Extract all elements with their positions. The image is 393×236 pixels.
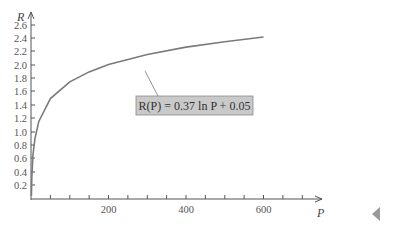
x-axis bbox=[31, 196, 322, 202]
svg-text:0.8: 0.8 bbox=[14, 140, 27, 151]
svg-text:400: 400 bbox=[178, 204, 194, 215]
previous-page-arrow-icon[interactable] bbox=[372, 207, 380, 221]
svg-text:1.0: 1.0 bbox=[14, 127, 27, 138]
annotation-leader bbox=[145, 71, 158, 96]
equation-label: R(P) = 0.37 ln P + 0.05 bbox=[136, 96, 253, 115]
svg-text:1.8: 1.8 bbox=[14, 73, 27, 84]
svg-text:200: 200 bbox=[101, 204, 117, 215]
svg-text:2.6: 2.6 bbox=[14, 20, 27, 31]
svg-text:0.2: 0.2 bbox=[14, 180, 27, 191]
x-axis-title: P bbox=[316, 206, 325, 220]
curve-series bbox=[31, 37, 263, 196]
svg-text:600: 600 bbox=[256, 204, 272, 215]
chart: R P 0.2 0.4 0.6 0.8 1.0 1.2 1.4 1.6 1.8 … bbox=[0, 0, 393, 236]
svg-text:1.4: 1.4 bbox=[14, 100, 28, 111]
x-ticks: 200 400 600 bbox=[50, 195, 302, 215]
svg-text:2.4: 2.4 bbox=[14, 33, 28, 44]
svg-text:1.6: 1.6 bbox=[14, 86, 27, 97]
svg-text:0.6: 0.6 bbox=[14, 153, 27, 164]
svg-text:2.0: 2.0 bbox=[14, 60, 27, 71]
svg-text:1.2: 1.2 bbox=[14, 113, 27, 124]
svg-text:0.4: 0.4 bbox=[14, 167, 28, 178]
svg-text:R(P) = 0.37 ln P + 0.05: R(P) = 0.37 ln P + 0.05 bbox=[139, 99, 251, 113]
svg-text:2.2: 2.2 bbox=[14, 46, 27, 57]
